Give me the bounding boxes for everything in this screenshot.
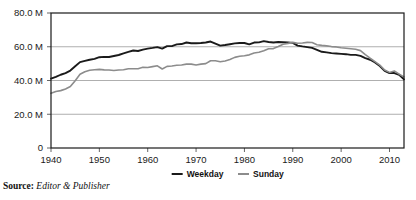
legend-label-sunday: Sunday <box>253 169 284 179</box>
x-tick-label: 1980 <box>234 154 255 165</box>
y-tick-label: 20.0 M <box>14 109 43 120</box>
y-tick-label: 0 <box>38 142 43 153</box>
source-label: Source: <box>3 181 34 191</box>
source-value: Editor & Publisher <box>36 181 109 191</box>
x-tick-label: 1970 <box>185 154 206 165</box>
y-tick-label: 60.0 M <box>14 41 43 52</box>
legend-label-weekday: Weekday <box>187 169 224 179</box>
chart-legend: WeekdaySunday <box>172 169 284 179</box>
y-tick-label: 40.0 M <box>14 75 43 86</box>
x-axis: 19401950196019701980199020002010 <box>40 148 400 165</box>
newspaper-circulation-figure: 020.0 M40.0 M60.0 M80.0 M 19401950196019… <box>0 0 416 200</box>
line-chart: 020.0 M40.0 M60.0 M80.0 M 19401950196019… <box>0 0 416 200</box>
x-tick-label: 1990 <box>282 154 303 165</box>
x-tick-label: 2000 <box>331 154 352 165</box>
x-tick-label: 2010 <box>379 154 400 165</box>
y-axis: 020.0 M40.0 M60.0 M80.0 M <box>14 7 51 153</box>
source-note: Source: Editor & Publisher <box>3 180 110 192</box>
x-tick-label: 1960 <box>137 154 158 165</box>
x-tick-label: 1950 <box>89 154 110 165</box>
y-tick-label: 80.0 M <box>14 7 43 18</box>
x-tick-label: 1940 <box>40 154 61 165</box>
